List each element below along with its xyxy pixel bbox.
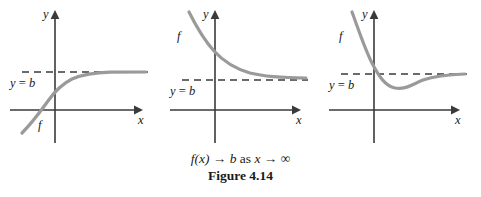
caption-as: as (236, 151, 254, 166)
caption-arrow-1: → (209, 151, 229, 166)
graph-panel-1: y x f y = b (0, 0, 160, 150)
caption-fx: f(x) (191, 151, 210, 166)
asymptote-label-panel-1: y = b (8, 76, 35, 90)
y-axis-label-panel-1: y (41, 7, 49, 21)
caption-infinity: ∞ (281, 151, 291, 166)
y-axis-label-panel-3: y (360, 7, 368, 21)
y-axis-label-panel-2: y (201, 7, 209, 21)
x-axis-label-panel-2: x (295, 113, 302, 127)
x-axis-label-panel-1: x (137, 113, 144, 127)
x-axis-panel-1 (10, 106, 143, 115)
x-axis-panel-3 (329, 106, 460, 115)
caption-arrow-2: → (260, 151, 280, 166)
figure-container: y x f y = b y x (0, 0, 481, 197)
graph-panel-2: y x f y = b (158, 0, 318, 150)
function-curve-panel-3 (352, 12, 465, 88)
asymptote-label-panel-2: y = b (168, 84, 195, 98)
curve-label-panel-1: f (38, 118, 43, 132)
figure-number: Figure 4.14 (0, 168, 481, 184)
figure-caption: f(x) → b as x → ∞ Figure 4.14 (0, 150, 481, 184)
graph-panel-3: y x f y = b (315, 0, 475, 150)
y-axis-panel-1 (51, 10, 60, 143)
function-curve-panel-2 (189, 12, 306, 78)
caption-formula: f(x) → b as x → ∞ (0, 150, 481, 167)
x-axis-panel-2 (170, 106, 301, 115)
curve-label-panel-3: f (339, 29, 344, 43)
curve-label-panel-2: f (177, 29, 182, 43)
asymptote-label-panel-3: y = b (327, 78, 354, 92)
x-axis-label-panel-3: x (454, 113, 461, 127)
y-axis-panel-3 (370, 10, 379, 143)
y-axis-panel-2 (211, 10, 220, 143)
